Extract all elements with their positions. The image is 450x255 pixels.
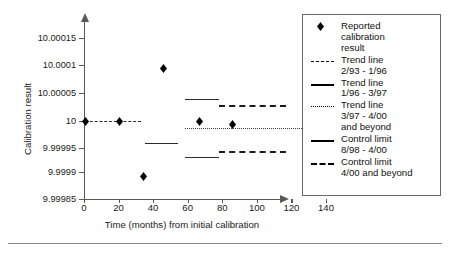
y-tick-label: 10.0001 — [4, 61, 76, 70]
y-tick-label: 10.00005 — [4, 89, 76, 98]
data-point-marker — [116, 117, 123, 126]
legend-key-dotted-line-icon — [308, 100, 336, 112]
y-axis-arrow-icon — [81, 13, 89, 22]
trend-line-1-96-3-97 — [145, 143, 178, 144]
legend-item-control-limit-8-98-4-00: Control limit 8/98 - 4/00 — [308, 134, 435, 156]
legend-label: 4/00 and beyond — [341, 168, 413, 179]
legend-item-trend-line-2-93-1-96: Trend line 2/93 - 1/96 — [308, 55, 435, 77]
footer-divider — [8, 243, 442, 244]
y-tick-label: 9.99995 — [4, 144, 76, 153]
y-tick-label: 10 — [4, 117, 76, 126]
legend-key-solid-line-icon — [308, 134, 336, 146]
chart-legend: Reported calibration result Trend line 2… — [302, 14, 441, 196]
figure-root: 10.00015 10.0001 10.00005 10 9.99995 9.9… — [0, 0, 450, 255]
control-limit-8-98-4-00-upper — [185, 99, 219, 100]
y-tick-label: 10.00015 — [4, 34, 76, 43]
legend-label: 1/96 - 3/97 — [341, 88, 387, 99]
y-axis-line — [84, 22, 85, 199]
legend-item-control-limit-4-00-and-beyond: Control limit 4/00 and beyond — [308, 157, 435, 179]
x-axis-line — [84, 199, 280, 200]
legend-label: result — [341, 43, 385, 54]
legend-label: 8/98 - 4/00 — [341, 145, 392, 156]
y-axis-title: Calibration result — [22, 83, 33, 155]
legend-label: and beyond — [341, 122, 391, 133]
data-point-marker — [196, 117, 203, 126]
control-limit-4-00-and-beyond-upper — [219, 105, 286, 107]
y-tick — [79, 38, 84, 39]
y-tick — [79, 93, 84, 94]
y-tick — [79, 65, 84, 66]
legend-item-trend-line-1-96-3-97: Trend line 1/96 - 3/97 — [308, 78, 435, 100]
data-point-marker — [140, 172, 147, 181]
legend-key-solid-line-icon — [308, 78, 336, 90]
legend-key-diamond-icon — [308, 21, 336, 33]
data-point-marker — [160, 64, 167, 73]
y-tick — [79, 148, 84, 149]
x-tick-label: 140 — [306, 203, 346, 213]
legend-item-reported-calibration-result: Reported calibration result — [308, 21, 435, 54]
x-axis-title: Time (months) from initial calibration — [84, 219, 280, 230]
legend-item-trend-line-3-97-4-00-and-beyond: Trend line 3/97 - 4/00 and beyond — [308, 100, 435, 133]
control-limit-8-98-4-00-lower — [185, 157, 219, 158]
legend-key-dashed-line-icon — [308, 55, 336, 67]
legend-label: Trend line — [341, 55, 387, 66]
legend-key-bold-dashed-line-icon — [308, 157, 336, 169]
legend-label: 2/93 - 1/96 — [341, 66, 387, 77]
trend-line-3-97-4-00-and-beyond — [185, 128, 306, 129]
y-tick — [79, 172, 84, 173]
trend-line-2-93-1-96 — [85, 121, 141, 122]
control-limit-4-00-and-beyond-lower — [219, 151, 286, 153]
y-tick-label: 9.9999 — [4, 168, 76, 177]
